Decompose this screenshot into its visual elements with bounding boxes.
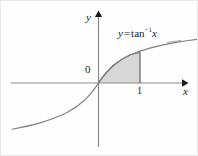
equation-operator: = (123, 27, 131, 39)
y-axis-arrowhead (95, 11, 102, 18)
arctangent-curve (12, 39, 198, 129)
y-axis-label: y (86, 12, 91, 23)
plot-canvas (1, 1, 198, 156)
origin-label: 0 (85, 64, 91, 75)
x-tick-label-1: 1 (137, 86, 142, 96)
curve-equation-label: y=tan−1x (118, 28, 157, 39)
equation-exponent: −1 (145, 26, 152, 34)
equation-argument: x (152, 27, 157, 39)
equation-function: tan (131, 27, 144, 39)
math-figure-arctangent: y x 0 1 y=tan−1x (0, 0, 198, 156)
x-axis-label: x (183, 86, 188, 97)
shaded-area-region (99, 53, 141, 83)
